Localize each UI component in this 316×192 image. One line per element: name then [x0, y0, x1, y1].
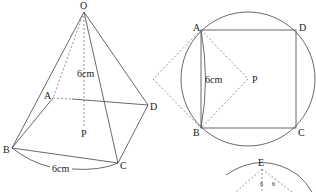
- square-vertex-c-label: C: [298, 127, 305, 138]
- base-edge-label: 6cm: [52, 163, 69, 174]
- square-vertex-a-label: A: [193, 22, 201, 33]
- height-label: 6cm: [77, 68, 94, 79]
- square-side-label: 6cm: [205, 74, 222, 85]
- square-vertex-d-label: D: [299, 22, 306, 33]
- vertex-b-label: B: [3, 144, 10, 155]
- square-point-p-label: P: [252, 74, 258, 85]
- partial-figure: E 6 6: [226, 157, 312, 192]
- geometry-diagram: O A D B C P 6cm 6cm A D B C P 6cm E 6 6: [0, 0, 316, 192]
- square-circle-figure: A D B C P 6cm: [153, 12, 315, 146]
- vertex-e-label: E: [258, 157, 264, 168]
- tick-label-2: 6: [272, 181, 275, 187]
- vertex-c-label: C: [120, 160, 127, 171]
- vertex-o-label: O: [80, 0, 87, 11]
- pyramid-figure: O A D B C P 6cm 6cm: [3, 0, 157, 174]
- square-vertex-b-label: B: [193, 127, 200, 138]
- tick-label-1: 6: [260, 181, 263, 187]
- vertex-a-label: A: [44, 90, 52, 101]
- vertex-d-label: D: [150, 101, 157, 112]
- point-p-label: P: [81, 128, 87, 139]
